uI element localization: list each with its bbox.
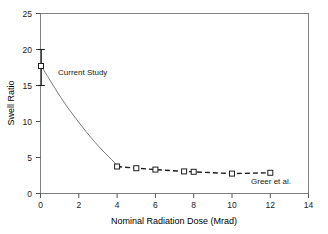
x-axis-title: Nominal Radiation Dose (Mrad): [111, 216, 237, 226]
y-tick-label-0: 0: [27, 189, 32, 199]
greer-data-markers: [115, 164, 273, 176]
data-point-marker: [115, 164, 120, 169]
x-axis-tick-labels: 0 2 4 6 8 10 12 14: [38, 200, 313, 210]
plot-area-border: [41, 14, 309, 194]
plot-frame: [41, 14, 309, 194]
data-point-marker: [39, 64, 44, 69]
current-study-curve: [41, 66, 118, 166]
data-point-marker: [153, 167, 158, 172]
annotation-greer-et-al: Greer et al.: [251, 177, 291, 186]
data-point-marker: [191, 169, 196, 174]
x-tick-label-8: 8: [191, 200, 196, 210]
x-tick-label-6: 6: [153, 200, 158, 210]
y-tick-label-15: 15: [23, 81, 33, 91]
y-axis-ticks: [36, 14, 41, 194]
x-tick-label-12: 12: [266, 200, 276, 210]
data-point-marker: [182, 169, 187, 174]
x-tick-label-4: 4: [115, 200, 120, 210]
swell-ratio-vs-radiation-dose-chart: 0 5 10 15 20 25 0 2 4 6 8 10 12 14: [0, 0, 328, 234]
y-tick-label-25: 25: [23, 9, 33, 19]
y-tick-label-20: 20: [23, 45, 33, 55]
annotation-current-study: Current Study: [58, 68, 107, 77]
x-axis-ticks: [41, 194, 309, 199]
data-point-marker: [268, 170, 273, 175]
y-tick-label-10: 10: [23, 117, 33, 127]
y-tick-label-5: 5: [27, 153, 32, 163]
x-tick-label-2: 2: [76, 200, 81, 210]
data-point-marker: [230, 171, 235, 176]
current-study-error-bar: [38, 50, 45, 86]
x-tick-label-0: 0: [38, 200, 43, 210]
y-axis-title: Swell Ratio: [6, 80, 16, 125]
data-point-marker: [134, 166, 139, 171]
x-tick-label-14: 14: [304, 200, 314, 210]
figure-container: 0 5 10 15 20 25 0 2 4 6 8 10 12 14: [0, 0, 328, 234]
y-axis-tick-labels: 0 5 10 15 20 25: [23, 9, 33, 199]
x-tick-label-10: 10: [227, 200, 237, 210]
